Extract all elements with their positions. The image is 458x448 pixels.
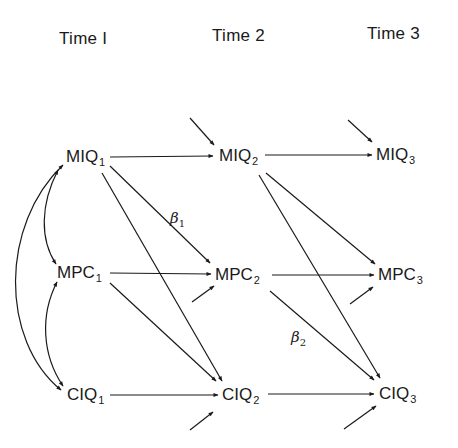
arrow-miq2-mpc3 bbox=[266, 173, 375, 264]
node-label: MIQ bbox=[66, 147, 98, 166]
arrow-mpc2-ciq3 bbox=[270, 291, 374, 380]
node-subscript: 2 bbox=[253, 394, 259, 406]
correlation-mpc1-ciq1 bbox=[46, 282, 63, 386]
coefficient-beta-2: β2 bbox=[291, 328, 306, 348]
coefficient-beta-1: β1 bbox=[170, 209, 185, 229]
disturbance-ciq3 bbox=[344, 406, 376, 429]
disturbance-miq2 bbox=[190, 118, 214, 145]
node-ciq1: CIQ1 bbox=[67, 386, 104, 406]
node-label: CIQ bbox=[379, 384, 409, 403]
disturbance-mpc3 bbox=[350, 287, 373, 304]
node-label: MPC bbox=[57, 263, 95, 282]
node-ciq3: CIQ3 bbox=[379, 385, 416, 405]
node-subscript: 1 bbox=[99, 156, 105, 168]
node-miq2: MIQ2 bbox=[219, 147, 258, 167]
node-label: MPC bbox=[378, 265, 416, 284]
node-subscript: 3 bbox=[410, 393, 416, 405]
node-subscript: 3 bbox=[409, 154, 415, 166]
arrow-miq1-mpc2 bbox=[110, 166, 210, 263]
node-subscript: 2 bbox=[254, 274, 260, 286]
node-mpc2: MPC2 bbox=[215, 266, 260, 286]
header-time-3: Time 3 bbox=[367, 24, 420, 44]
node-label: CIQ bbox=[222, 385, 252, 404]
node-mpc3: MPC3 bbox=[378, 266, 423, 286]
arrow-miq2-ciq3 bbox=[259, 175, 380, 378]
node-label: CIQ bbox=[67, 385, 97, 404]
disturbance-miq3 bbox=[348, 120, 372, 142]
header-time-1: Time I bbox=[59, 29, 107, 49]
disturbance-ciq2 bbox=[190, 412, 213, 430]
node-miq1: MIQ1 bbox=[66, 148, 105, 168]
node-subscript: 3 bbox=[417, 274, 423, 286]
correlation-miq1-ciq1 bbox=[15, 165, 63, 390]
node-mpc1: MPC1 bbox=[57, 264, 102, 284]
node-subscript: 1 bbox=[98, 394, 104, 406]
disturbance-mpc2 bbox=[192, 286, 214, 302]
arrow-miq1-miq2 bbox=[110, 156, 213, 157]
arrow-miq1-ciq2 bbox=[102, 173, 222, 381]
node-label: MPC bbox=[215, 265, 253, 284]
node-subscript: 1 bbox=[96, 272, 102, 284]
header-time-2: Time 2 bbox=[212, 26, 265, 46]
cross-lagged-path-diagram: Time I Time 2 Time 3 MIQ1 MPC1 CIQ1 MIQ2… bbox=[0, 0, 458, 448]
arrow-mpc1-ciq2 bbox=[110, 283, 216, 381]
node-label: MIQ bbox=[219, 146, 251, 165]
node-subscript: 2 bbox=[252, 155, 258, 167]
node-miq3: MIQ3 bbox=[376, 146, 415, 166]
path-arrows bbox=[0, 0, 458, 448]
node-label: MIQ bbox=[376, 145, 408, 164]
node-ciq2: CIQ2 bbox=[222, 386, 259, 406]
